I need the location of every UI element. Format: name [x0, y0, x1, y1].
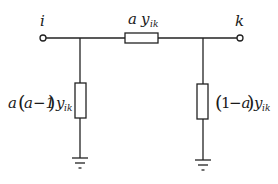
- svg-text:a: a: [8, 94, 17, 112]
- terminal-k-icon: [237, 35, 243, 41]
- node-i-label: i: [40, 12, 45, 30]
- left-shunt-admittance-label: a ( a−1 ) y ik: [8, 91, 72, 113]
- svg-text:a: a: [128, 10, 137, 28]
- series-admittance-icon: [125, 33, 158, 43]
- terminal-i-icon: [40, 35, 46, 41]
- series-admittance-label: a y ik: [128, 10, 158, 29]
- svg-text:ik: ik: [150, 19, 158, 29]
- ground-icon-left: [72, 158, 88, 168]
- svg-text:y: y: [140, 10, 150, 28]
- right-shunt-admittance-label: ( 1 −a ) y ik: [215, 91, 270, 113]
- left-shunt-admittance-icon: [75, 83, 86, 118]
- pi-circuit-diagram: i k a y ik a ( a−1 ) y ik ( 1 −a ) y ik: [0, 0, 278, 184]
- svg-text:): ): [48, 91, 55, 113]
- ground-icon-right: [195, 160, 211, 170]
- node-k-label: k: [235, 12, 244, 30]
- right-shunt-admittance-icon: [197, 84, 208, 119]
- svg-text:ik: ik: [64, 103, 72, 113]
- svg-text:ik: ik: [262, 103, 270, 113]
